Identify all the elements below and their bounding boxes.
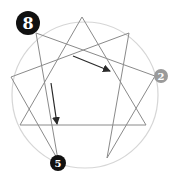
badge-5: 5	[50, 155, 66, 171]
enneagram-diagram: 8 2 5	[0, 0, 178, 186]
hexad-1-4-2-8-5-7	[11, 33, 155, 160]
arrow-8-to-5	[51, 83, 57, 124]
badge-5-label: 5	[55, 158, 62, 169]
badge-8-label: 8	[22, 14, 33, 33]
badge-2: 2	[154, 69, 168, 83]
badge-2-label: 2	[158, 71, 165, 82]
outer-circle	[12, 22, 158, 168]
badge-8: 8	[16, 11, 40, 35]
